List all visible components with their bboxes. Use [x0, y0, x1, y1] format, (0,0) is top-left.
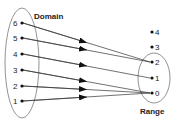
range-points: 4 3 2 1 0 — [150, 28, 160, 98]
range-dot-4 — [150, 30, 153, 33]
domain-dot-3 — [20, 68, 23, 71]
domain-value-4: 4 — [13, 50, 18, 59]
arrowhead-2 — [23, 86, 87, 90]
range-value-2: 2 — [155, 58, 160, 67]
range-dot-0 — [150, 91, 153, 94]
range-dot-2 — [150, 60, 153, 63]
mapping-arrows — [23, 23, 150, 101]
function-mapping-diagram: Domain Range 6 5 4 3 2 1 4 — [0, 0, 181, 123]
range-dot-3 — [150, 45, 153, 48]
arrowhead-4 — [23, 54, 87, 66]
range-value-3: 3 — [155, 43, 160, 52]
domain-dot-6 — [20, 21, 23, 24]
domain-dot-2 — [20, 84, 23, 87]
range-label: Range — [140, 107, 165, 116]
domain-dot-4 — [20, 52, 23, 55]
domain-label: Domain — [34, 12, 63, 21]
range-value-4: 4 — [155, 28, 160, 37]
domain-dot-5 — [20, 36, 23, 39]
range-dot-1 — [150, 76, 153, 79]
domain-value-1: 1 — [13, 97, 18, 106]
range-value-1: 1 — [155, 74, 160, 83]
domain-dot-1 — [20, 99, 23, 102]
range-value-0: 0 — [155, 89, 160, 98]
domain-points: 6 5 4 3 2 1 — [13, 19, 24, 106]
domain-value-5: 5 — [13, 34, 18, 43]
domain-value-2: 2 — [13, 82, 18, 91]
arrowhead-1 — [23, 97, 87, 101]
domain-value-6: 6 — [13, 19, 18, 28]
domain-value-3: 3 — [13, 66, 18, 75]
arrowhead-3 — [23, 70, 87, 82]
